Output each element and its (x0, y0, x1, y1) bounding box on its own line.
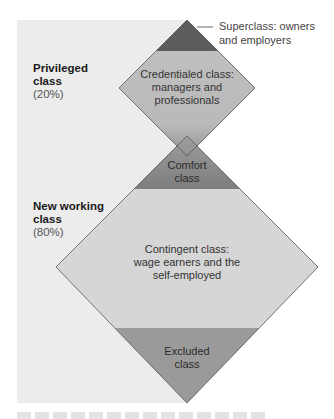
label-line: managers and (127, 81, 247, 94)
superclass-callout: Superclass: owners and employers (219, 19, 315, 47)
excluded-label: Excluded class (147, 345, 227, 371)
label-line: class (147, 358, 227, 371)
label-line: self-employed (122, 269, 252, 282)
label-line: professionals (127, 94, 247, 107)
label-line: Excluded (147, 345, 227, 358)
label-line: Contingent class: (122, 243, 252, 256)
callout-line-2: and employers (219, 33, 315, 47)
privileged-class-label: Privileged class (20%) (33, 62, 103, 101)
label-line: Credentialed class: (127, 68, 247, 81)
credentialed-label: Credentialed class: managers and profess… (127, 68, 247, 107)
label-line: class (147, 172, 227, 185)
figure-caption-cutoff (17, 412, 267, 419)
label-line: wage earners and the (122, 256, 252, 269)
group-name: Privileged class (33, 62, 103, 88)
group-share: (80%) (33, 226, 113, 239)
comfort-label: Comfort class (147, 159, 227, 185)
callout-line-1: Superclass: owners (219, 19, 315, 33)
label-line: Comfort (147, 159, 227, 172)
contingent-label: Contingent class: wage earners and the s… (122, 243, 252, 282)
new-working-class-label: New working class (80%) (33, 200, 113, 239)
group-share: (20%) (33, 88, 103, 101)
group-name: New working class (33, 200, 113, 226)
